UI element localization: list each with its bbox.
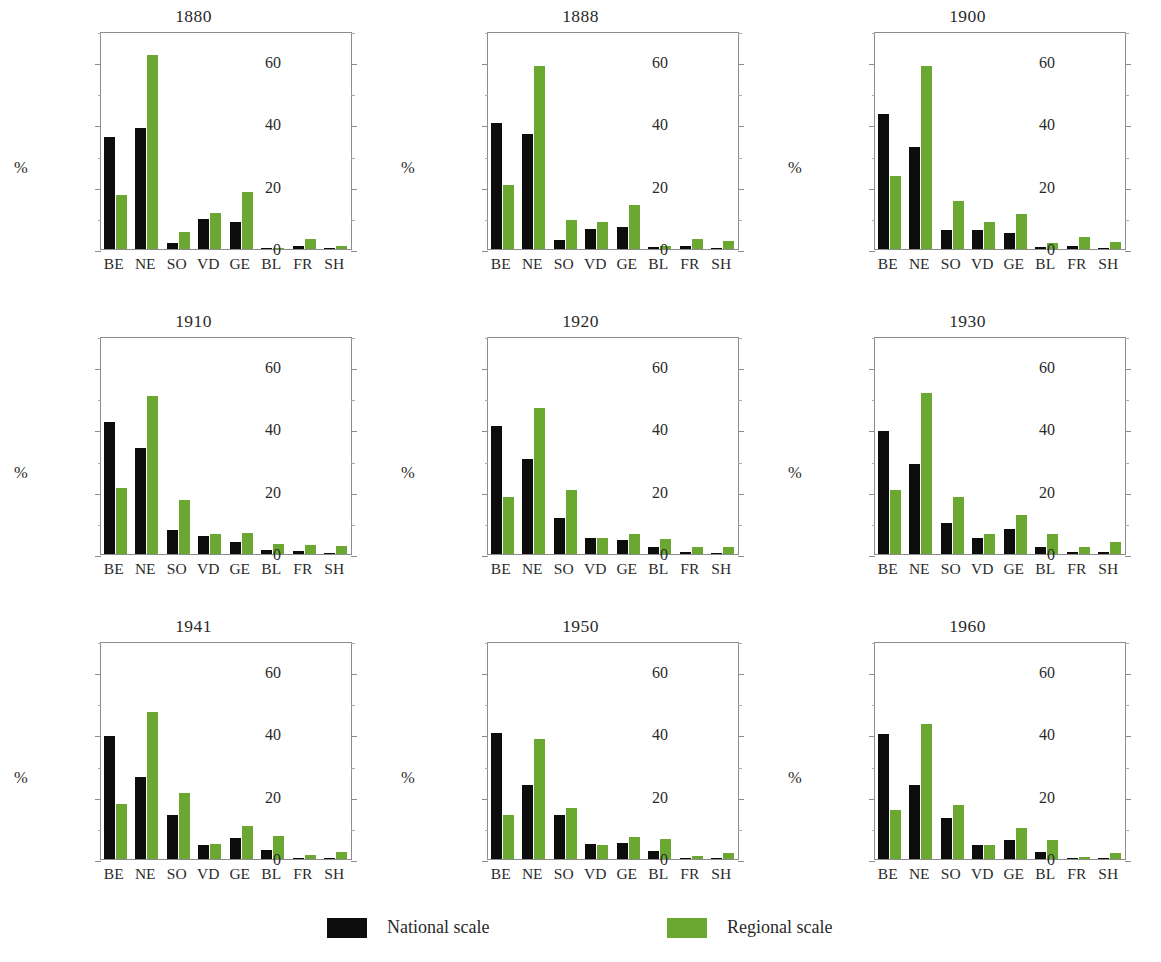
bar-regional: [210, 534, 221, 554]
y-axis-tick: [95, 251, 101, 252]
bar-group: [909, 33, 941, 249]
bar-group: [1098, 643, 1130, 859]
x-axis-tick-label: NE: [522, 255, 543, 273]
x-axis-tick-label: FR: [680, 255, 699, 273]
bar-regional: [723, 241, 734, 249]
y-axis-tick-label: 40: [628, 726, 668, 744]
bar-national: [1098, 858, 1109, 859]
bar-group: [104, 33, 136, 249]
bar-national: [135, 128, 146, 249]
bar-national: [1004, 840, 1015, 859]
bar-national: [522, 459, 533, 554]
bar-national: [972, 845, 983, 859]
legend-swatch-regional-icon: [667, 918, 707, 938]
bar-group: [680, 33, 712, 249]
bar-national: [491, 733, 502, 859]
bar-group: [522, 338, 554, 554]
x-axis-labels: BENESOVDGEBLFRSH: [487, 865, 739, 889]
bar-group: [198, 33, 230, 249]
y-axis-tick: [482, 861, 488, 862]
bar-regional: [534, 66, 545, 249]
bar-national: [617, 227, 628, 249]
bar-national: [972, 538, 983, 554]
bar-national: [324, 553, 335, 554]
bar-national: [711, 858, 722, 859]
bar-regional: [921, 393, 932, 554]
x-axis-tick-label: NE: [522, 865, 543, 883]
y-axis-tick-right: [1125, 556, 1131, 557]
x-axis-labels: BENESOVDGEBLFRSH: [100, 865, 352, 889]
bar-regional: [692, 239, 703, 249]
x-axis-tick-label: BL: [261, 865, 281, 883]
x-axis-tick-label: SO: [941, 255, 961, 273]
bar-group: [198, 338, 230, 554]
x-axis-tick-label: GE: [229, 865, 250, 883]
x-axis-tick-label: SH: [1098, 865, 1118, 883]
bar-regional: [984, 534, 995, 554]
bar-national: [491, 123, 502, 249]
plot-area: [874, 642, 1126, 860]
bar-group: [585, 338, 617, 554]
panel-title: 1880: [0, 6, 387, 27]
x-axis-tick-label: SH: [1098, 560, 1118, 578]
x-axis-tick-label: SO: [167, 255, 187, 273]
bar-national: [711, 248, 722, 249]
y-axis-tick-right: [351, 556, 357, 557]
y-axis-unit-label: %: [401, 158, 415, 178]
y-axis-unit-label: %: [14, 463, 28, 483]
bar-regional: [305, 545, 316, 554]
x-axis-tick-label: SH: [711, 255, 731, 273]
plot-area: [100, 32, 352, 250]
x-axis-labels: BENESOVDGEBLFRSH: [100, 255, 352, 279]
bar-group: [491, 643, 523, 859]
bar-national: [941, 523, 952, 554]
bar-national: [104, 422, 115, 554]
bar-regional: [566, 490, 577, 554]
bar-national: [941, 818, 952, 859]
y-axis-tick-label: 20: [628, 179, 668, 197]
x-axis-tick-label: GE: [616, 865, 637, 883]
bar-regional: [953, 201, 964, 249]
bar-group: [522, 643, 554, 859]
bar-regional: [921, 66, 932, 249]
chart-panel: 1941%0204060BENESOVDGEBLFRSH: [0, 610, 387, 915]
bars-layer: [875, 643, 1125, 859]
y-axis-tick: [95, 861, 101, 862]
bar-group: [909, 643, 941, 859]
panel-grid: 1880%0204060BENESOVDGEBLFRSH1888%0204060…: [0, 0, 1161, 905]
x-axis-tick-label: BE: [878, 865, 898, 883]
bars-layer: [875, 33, 1125, 249]
bar-national: [230, 222, 241, 249]
bar-group: [554, 643, 586, 859]
bar-regional: [566, 808, 577, 859]
bar-group: [554, 33, 586, 249]
y-axis-tick-right: [1125, 861, 1131, 862]
x-axis-tick-label: BL: [261, 255, 281, 273]
plot-area: [100, 337, 352, 555]
y-axis-tick-label: 40: [1015, 116, 1055, 134]
x-axis-tick-label: FR: [680, 865, 699, 883]
y-axis-tick-label: 40: [628, 421, 668, 439]
bar-national: [104, 137, 115, 249]
panel-title: 1960: [774, 616, 1161, 637]
bar-group: [554, 338, 586, 554]
x-axis-tick-label: FR: [1067, 255, 1086, 273]
bar-regional: [534, 739, 545, 859]
bar-national: [1004, 529, 1015, 554]
bar-national: [617, 843, 628, 859]
x-axis-tick-label: SH: [324, 865, 344, 883]
chart-panel: 1880%0204060BENESOVDGEBLFRSH: [0, 0, 387, 305]
bar-group: [909, 338, 941, 554]
bar-group: [293, 33, 325, 249]
bar-national: [522, 785, 533, 859]
bar-group: [878, 338, 910, 554]
bar-national: [1004, 233, 1015, 249]
bar-national: [680, 552, 691, 554]
bar-national: [680, 246, 691, 249]
bar-national: [324, 858, 335, 859]
bar-group: [104, 338, 136, 554]
bar-national: [1067, 858, 1078, 859]
y-axis-tick-label: 40: [241, 726, 281, 744]
x-axis-labels: BENESOVDGEBLFRSH: [874, 560, 1126, 584]
x-axis-tick-label: FR: [293, 865, 312, 883]
